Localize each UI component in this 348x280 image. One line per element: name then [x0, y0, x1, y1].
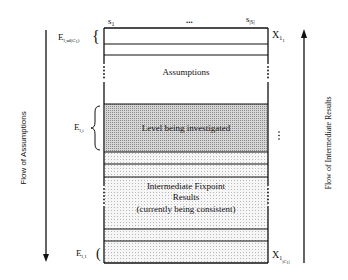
fixpoint-label-line3: (currently being consistent)	[137, 204, 236, 214]
fixpoint-label-line2: Results	[173, 192, 200, 202]
assumptions-arrow-head	[43, 254, 49, 262]
assumptions-arrow-label: Flow of Assumptions	[19, 111, 28, 184]
column-label-first: s1	[108, 16, 115, 27]
column-label-last: s|S|	[246, 14, 255, 25]
left-edge-dots-upper	[103, 66, 105, 78]
right-side-dots-level	[278, 131, 280, 140]
label-x-top: X11	[272, 29, 285, 43]
column-ellipsis: ...	[186, 15, 193, 25]
label-e-top: El,sd(C1)	[58, 32, 80, 44]
results-arrow-head	[301, 29, 307, 38]
level-label: Level being investigated	[142, 123, 231, 133]
label-e-middle: El,i	[74, 122, 84, 134]
right-edge-dots-upper	[267, 66, 269, 78]
brace-top: {	[92, 28, 100, 45]
assumptions-label: Assumptions	[162, 67, 210, 77]
brace-bottom: (	[96, 246, 101, 262]
left-edge-dots-lower	[103, 188, 105, 204]
results-arrow-label: Flow of Intermediate Results	[324, 96, 333, 189]
diagram-canvas: s1 ... s|S| El,sd(C1) { El,i El,1 ( X11 …	[0, 0, 348, 280]
brace-middle	[91, 106, 100, 150]
label-e-bottom: El,1	[76, 248, 87, 260]
fixpoint-label-line1: Intermediate Fixpoint	[147, 181, 226, 191]
label-x-bottom: X1|C1|	[272, 249, 290, 265]
